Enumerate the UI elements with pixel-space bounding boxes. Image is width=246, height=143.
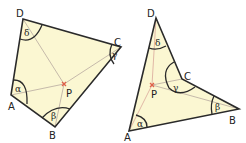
vertex-label-d-right: D bbox=[147, 8, 155, 19]
angle-label-alpha-left: α bbox=[15, 84, 21, 94]
vertex-label-b-left: B bbox=[49, 130, 56, 141]
point-label-p-left: P bbox=[66, 88, 72, 99]
angle-label-gamma-right: γ bbox=[173, 83, 178, 93]
diagram-canvas: D C B A P δ γ β α D C B A P δ γ bbox=[0, 0, 246, 143]
angle-label-gamma-left: γ bbox=[112, 50, 117, 60]
angle-label-beta-left: β bbox=[51, 111, 56, 121]
vertex-label-d-left: D bbox=[16, 8, 24, 19]
vertex-label-c-left: C bbox=[114, 37, 121, 48]
angle-label-beta-right: β bbox=[215, 102, 220, 112]
angle-label-delta-left: δ bbox=[24, 28, 29, 38]
vertex-label-a-left: A bbox=[8, 101, 15, 112]
angle-label-alpha-right: α bbox=[137, 119, 143, 129]
vertex-label-c-right: C bbox=[184, 71, 191, 82]
point-label-p-right: P bbox=[151, 89, 157, 100]
vertex-label-b-right: B bbox=[229, 115, 236, 126]
figure-right: D C B A P δ γ β α bbox=[124, 8, 239, 143]
vertex-label-a-right: A bbox=[124, 132, 131, 143]
figure-left: D C B A P δ γ β α bbox=[8, 8, 121, 141]
angle-label-delta-right: δ bbox=[155, 38, 160, 48]
